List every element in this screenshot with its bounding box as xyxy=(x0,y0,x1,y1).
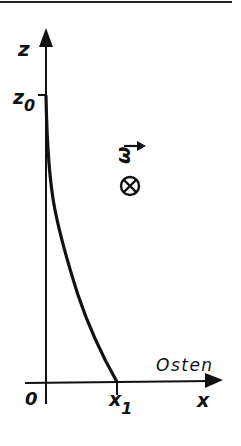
origin-label: 0 xyxy=(25,388,38,409)
x-axis xyxy=(25,373,223,388)
x-axis-label: x xyxy=(196,389,210,411)
omega-vector: ω xyxy=(111,141,146,164)
omega-symbol: ω xyxy=(111,147,135,164)
z0-label: z0 xyxy=(12,86,35,115)
trajectory-curve xyxy=(46,96,117,382)
direction-label-east: Osten xyxy=(156,355,214,375)
coriolis-diagram: z z0 0 x1 x Osten ω xyxy=(0,0,241,446)
x1-label: x1 xyxy=(108,388,132,418)
x-axis-arrowhead-icon xyxy=(205,373,223,388)
into-page-icon xyxy=(121,177,139,195)
z-axis-label: z xyxy=(17,37,30,61)
z-axis-arrowhead-icon xyxy=(39,28,53,47)
z-axis xyxy=(39,28,53,404)
